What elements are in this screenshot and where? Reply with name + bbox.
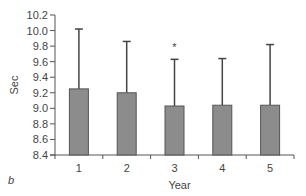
bar-year-5 <box>261 105 280 155</box>
x-tick-label: 3 <box>171 162 177 174</box>
y-axis-title: Sec <box>8 75 20 94</box>
x-tick-label: 2 <box>124 162 130 174</box>
y-tick-label: 8.6 <box>33 133 48 145</box>
y-tick-label: 9.4 <box>33 71 48 83</box>
y-tick-label: 8.4 <box>33 149 48 161</box>
x-tick-label: 1 <box>76 162 82 174</box>
y-tick-label: 9.6 <box>33 56 48 68</box>
bar-year-1 <box>69 89 88 155</box>
y-tick-label: 9.0 <box>33 102 48 114</box>
panel-label: b <box>8 174 14 186</box>
bar-year-2 <box>117 93 136 155</box>
y-tick-label: 10.2 <box>27 9 48 21</box>
y-tick-label: 9.8 <box>33 40 48 52</box>
y-tick-label: 9.2 <box>33 87 48 99</box>
x-tick-label: 5 <box>267 162 273 174</box>
x-tick-label: 4 <box>219 162 225 174</box>
y-tick-label: 8.8 <box>33 118 48 130</box>
bar-year-4 <box>213 105 232 155</box>
bar-year-3 <box>165 106 184 155</box>
y-tick-label: 10.0 <box>27 25 48 37</box>
x-axis-title: Year <box>168 179 191 191</box>
significance-marker: * <box>172 41 177 53</box>
bar-chart: 8.48.68.89.09.29.49.69.810.010.2Sec123*4… <box>0 0 306 196</box>
